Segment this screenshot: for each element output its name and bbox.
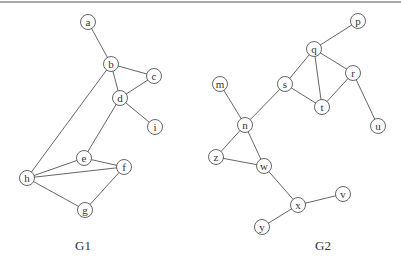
node-p: p — [351, 14, 366, 29]
node-label: f — [122, 161, 126, 173]
node-label: c — [152, 70, 157, 82]
node-label: h — [24, 172, 30, 184]
node-label: m — [216, 78, 225, 90]
node-c: c — [147, 69, 162, 84]
nodes-layer: abcdiefhgpqrstumnzwxvy — [20, 14, 386, 235]
graph-label-g1: G1 — [75, 238, 91, 253]
graph-canvas: abcdiefhgpqrstumnzwxvy G1 G2 — [0, 0, 401, 261]
node-d: d — [113, 91, 128, 106]
node-n: n — [238, 118, 253, 133]
node-label: g — [82, 204, 88, 216]
node-label: n — [242, 119, 248, 131]
node-label: i — [153, 121, 156, 133]
edges-layer — [27, 21, 378, 227]
node-label: t — [320, 101, 323, 113]
node-e: e — [77, 151, 92, 166]
node-x: x — [291, 198, 306, 213]
node-label: s — [283, 78, 287, 90]
node-label: b — [108, 58, 114, 70]
node-r: r — [346, 66, 361, 81]
node-u: u — [371, 119, 386, 134]
node-label: p — [355, 15, 361, 27]
node-label: u — [375, 120, 381, 132]
graph-label-g2: G2 — [315, 238, 331, 253]
node-label: a — [86, 16, 91, 28]
node-label: q — [311, 43, 317, 55]
node-y: y — [255, 220, 270, 235]
node-label: r — [351, 67, 355, 79]
edge-d-e — [84, 98, 120, 158]
node-m: m — [213, 77, 228, 92]
edge-r-u — [353, 73, 378, 126]
node-label: w — [260, 160, 268, 172]
edge-s-n — [245, 84, 285, 125]
node-t: t — [315, 100, 330, 115]
edge-g-f — [85, 167, 124, 210]
node-h: h — [20, 171, 35, 186]
node-q: q — [307, 42, 322, 57]
node-label: e — [82, 152, 87, 164]
node-label: x — [295, 199, 301, 211]
node-s: s — [278, 77, 293, 92]
node-label: d — [117, 92, 123, 104]
node-z: z — [209, 150, 224, 165]
node-label: y — [259, 221, 265, 233]
node-b: b — [104, 57, 119, 72]
node-g: g — [78, 203, 93, 218]
edge-h-g — [27, 178, 85, 210]
node-i: i — [148, 120, 163, 135]
node-label: v — [340, 188, 346, 200]
edge-q-t — [314, 49, 322, 107]
node-v: v — [336, 187, 351, 202]
node-a: a — [81, 15, 96, 30]
node-w: w — [257, 159, 272, 174]
node-label: z — [214, 151, 219, 163]
node-f: f — [117, 160, 132, 175]
